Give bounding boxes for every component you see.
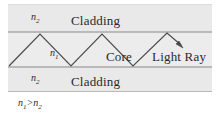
light-ray-label: Light Ray <box>152 50 206 63</box>
refractive-index-core: n1 <box>50 48 59 61</box>
condition-right-subscript: 2 <box>38 103 42 111</box>
n-subscript-core: 1 <box>55 53 59 61</box>
cladding-top-label: Cladding <box>71 14 120 27</box>
refractive-index-cladding-bottom: n2 <box>31 73 40 86</box>
core-label: Core <box>106 50 132 63</box>
refractive-index-cladding-top: n2 <box>31 12 40 25</box>
n-subscript-cladding-top: 2 <box>36 17 40 25</box>
n-subscript-cladding-bottom: 2 <box>36 78 40 86</box>
cladding-bottom-label: Cladding <box>71 75 120 88</box>
fiber-optic-diagram: n2 Cladding n1 Core Light Ray n2 Claddin… <box>0 0 222 114</box>
index-condition-label: n1>n2 <box>18 98 42 111</box>
